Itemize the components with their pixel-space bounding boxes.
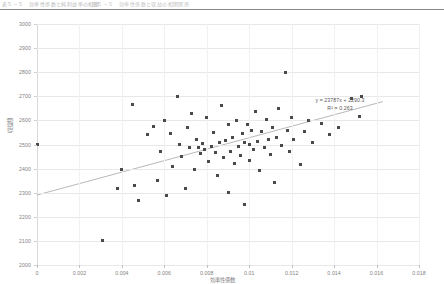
y-axis-tick-label: 2100 (5, 238, 31, 244)
x-axis-tick-label: 0.016 (357, 270, 397, 276)
x-gridline (164, 24, 165, 265)
data-point (252, 148, 255, 151)
data-point (188, 146, 191, 149)
x-axis-tick-label: 0.018 (399, 270, 439, 276)
data-point (176, 95, 179, 98)
x-axis-tick-label: 0.014 (314, 270, 354, 276)
document-header-strip: 表５－５ 効率性係数と純利益率の相関 図５－５ 効率性係数と収益の相関関係 (0, 0, 444, 11)
data-point (227, 123, 230, 126)
data-point (243, 203, 246, 206)
data-point (203, 148, 206, 151)
y-axis-tick-label: 2800 (5, 69, 31, 75)
data-point (328, 133, 331, 136)
data-point (231, 136, 234, 139)
regression-equation: y = 23787x + 2290.3 (297, 97, 383, 105)
data-point (241, 132, 244, 135)
data-point (205, 116, 208, 119)
data-point (263, 146, 266, 149)
y-gridline (37, 48, 419, 49)
y-axis-tick-label: 2000 (5, 262, 31, 268)
data-point (273, 181, 276, 184)
x-axis-tick-label: 0.01 (229, 270, 269, 276)
y-axis-tick (34, 96, 37, 97)
x-axis-tick (292, 265, 293, 268)
header-caption-right: 図５－５ 効率性係数と収益の相関関係 (92, 0, 189, 7)
y-axis-tick (34, 193, 37, 194)
y-axis-tick (34, 72, 37, 73)
data-point (184, 187, 187, 190)
data-point (256, 140, 259, 143)
x-gridline (377, 24, 378, 265)
data-point (248, 159, 251, 162)
data-point (210, 145, 213, 148)
data-point (216, 174, 219, 177)
x-axis-tick-label: 0 (17, 270, 57, 276)
data-point (195, 138, 198, 141)
x-gridline (292, 24, 293, 265)
data-point (220, 104, 223, 107)
x-axis-tick-label: 0.004 (102, 270, 142, 276)
x-gridline (79, 24, 80, 265)
data-point (201, 142, 204, 145)
x-axis-tick (249, 265, 250, 268)
y-gridline (37, 24, 419, 25)
data-point (159, 150, 162, 153)
data-point (358, 115, 361, 118)
header-divider (0, 9, 444, 10)
y-axis-tick-label: 2300 (5, 190, 31, 196)
x-gridline (207, 24, 208, 265)
x-axis-tick (334, 265, 335, 268)
data-point (258, 169, 261, 172)
y-gridline (37, 169, 419, 170)
data-point (290, 116, 293, 119)
data-point (303, 130, 306, 133)
data-point (101, 239, 104, 242)
data-point (284, 71, 287, 74)
data-point (131, 103, 134, 106)
x-axis-tick (419, 265, 420, 268)
y-axis-tick (34, 24, 37, 25)
data-point (222, 156, 225, 159)
y-axis-tick (34, 241, 37, 242)
data-point (214, 151, 217, 154)
y-gridline (37, 145, 419, 146)
data-point (186, 126, 189, 129)
y-gridline (37, 241, 419, 242)
x-axis-tick (207, 265, 208, 268)
data-point (235, 119, 238, 122)
data-point (169, 132, 172, 135)
x-gridline (419, 24, 420, 265)
x-gridline (122, 24, 123, 265)
x-axis-tick (122, 265, 123, 268)
data-point (275, 136, 278, 139)
data-point (271, 126, 274, 129)
x-axis-tick-label: 0.002 (59, 270, 99, 276)
x-axis-title: 効率性係数 (0, 276, 444, 284)
data-point (116, 187, 119, 190)
data-point (180, 155, 183, 158)
data-point (280, 144, 283, 147)
x-gridline (334, 24, 335, 265)
y-gridline (37, 265, 419, 266)
data-point (171, 165, 174, 168)
data-point (199, 152, 202, 155)
x-axis-tick-label: 0.008 (187, 270, 227, 276)
data-point (207, 160, 210, 163)
data-point (197, 146, 200, 149)
data-point (237, 145, 240, 148)
x-axis-tick (79, 265, 80, 268)
plot-area (37, 24, 419, 265)
y-axis-tick-label: 2900 (5, 45, 31, 51)
data-point (288, 150, 291, 153)
data-point (246, 123, 249, 126)
data-point (229, 150, 232, 153)
data-point (243, 141, 246, 144)
data-point (311, 141, 314, 144)
x-axis-tick-label: 0.006 (144, 270, 184, 276)
data-point (190, 112, 193, 115)
data-point (224, 139, 227, 142)
x-axis-tick (37, 265, 38, 268)
y-axis-tick (34, 217, 37, 218)
y-axis-tick-label: 2700 (5, 93, 31, 99)
data-point (212, 131, 215, 134)
